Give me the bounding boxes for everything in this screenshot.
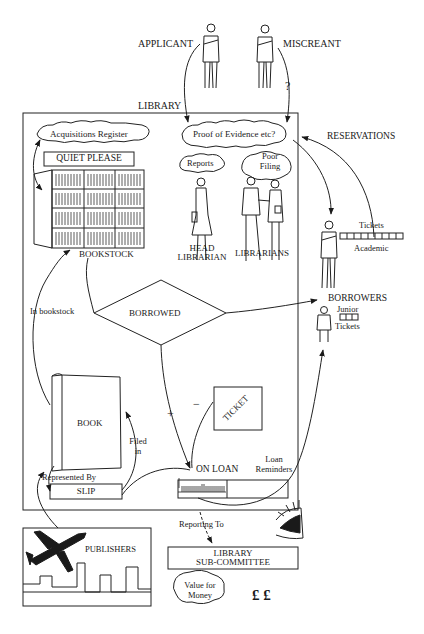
academic-tickets-icon [340, 233, 403, 239]
loan-reminders-label: LoanReminders [250, 454, 298, 474]
junior-label: Junior [337, 304, 358, 315]
diagram-lines [0, 0, 424, 634]
borrowed-label: BORROWED [129, 308, 181, 319]
reservations-label: RESERVATIONS [327, 131, 395, 142]
city-skyline-icon [23, 563, 151, 592]
librarian-label: LIBRARIAN [178, 252, 227, 262]
academic-tickets-label: Tickets [359, 220, 384, 231]
applicant-figure-icon [203, 24, 219, 88]
reminders-label: Reminders [256, 464, 293, 474]
loan-label: Loan [265, 454, 282, 464]
reporting-to-label: Reporting To [179, 519, 224, 530]
filing-label: Filing [260, 161, 280, 171]
bookstock-label: BOOKSTOCK [79, 249, 134, 260]
library-label: LIBRARY [138, 100, 181, 111]
filed-label: Filed [129, 436, 146, 446]
acquisitions-register-cloud: Acquisitions Register [50, 129, 128, 140]
miscreant-label: MISCREANT [283, 38, 341, 49]
question-mark: ? [285, 81, 290, 92]
represented-by-label: Represented By [42, 472, 96, 483]
reports-cloud: Reports [187, 158, 213, 169]
academic-borrower-figure-icon [321, 221, 337, 288]
value-for-money-cloud: Value forMoney [176, 580, 224, 600]
book-label: BOOK [77, 418, 103, 429]
miscreant-figure-icon [257, 25, 273, 88]
eye-icon [276, 500, 303, 539]
in-bookstock-label: In bookstock [30, 306, 74, 317]
applicant-label: APPLICANT [138, 38, 193, 49]
pound-signs: £ £ [252, 590, 271, 601]
poor-filing-cloud: PoorFiling [253, 151, 287, 171]
library-subcommittee-label: LIBRARYSUB-COMMITTEE [168, 549, 298, 567]
borrowers-label: BORROWERS [328, 293, 387, 304]
academic-label: Academic [354, 243, 388, 254]
on-loan-label: ON LOAN [196, 464, 238, 475]
head-librarian-label: HEADLIBRARIAN [170, 244, 234, 262]
slip-label: SLIP [50, 486, 122, 497]
in-label: in [135, 446, 142, 456]
poor-label: Poor [262, 151, 278, 161]
bookcase-icon [34, 170, 144, 248]
subcommittee-sub-label: SUB-COMMITTEE [196, 557, 270, 567]
librarians-label: LIBRARIANS [235, 248, 289, 259]
money-label: Money [188, 590, 212, 600]
publishers-label: PUBLISHERS [85, 544, 136, 555]
value-for-label: Value for [184, 580, 215, 590]
filed-in-label: Filedin [124, 436, 152, 456]
minus-sign: − [193, 399, 200, 410]
plus-sign: + [167, 409, 174, 420]
quiet-please-sign: QUIET PLEASE [44, 153, 134, 164]
junior-tickets-label: Tickets [335, 321, 360, 332]
proof-of-evidence-cloud: Proof of Evidence etc? [193, 129, 275, 140]
junior-borrower-figure-icon [317, 307, 331, 343]
